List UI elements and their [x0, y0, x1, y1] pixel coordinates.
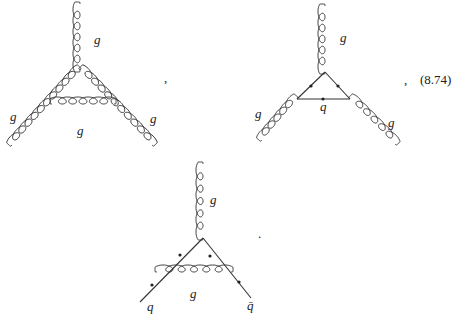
d1-internal-gluon-line: [50, 97, 116, 104]
d1-left-gluon-line: [7, 65, 81, 146]
d2-right-gluon-label: g: [388, 115, 395, 130]
d2-left-gluon-line: [257, 94, 298, 141]
d1-internal-gluon-label: g: [77, 123, 84, 138]
d3-antiquark-label: q̄: [247, 298, 254, 313]
d2-arrow-left: [309, 84, 312, 87]
equation-number: (8.74): [420, 72, 451, 87]
d3-arrow-lower-right: [237, 280, 240, 283]
d2-comma: ,: [404, 72, 407, 87]
d2-internal-quark-label: q: [320, 99, 327, 114]
d3-internal-gluon-label: g: [190, 286, 197, 301]
d1-top-gluon-line: [73, 2, 80, 72]
d1-left-gluon-label: g: [10, 109, 17, 124]
d3-arrow-upper-left: [178, 253, 181, 256]
d3-top-gluon-line: [196, 162, 203, 240]
d3-antiquark-line: [203, 238, 251, 298]
feynman-diagrams-figure: g g g g , g g g q , (8.74) g g q q̄ .: [0, 0, 460, 318]
d1-comma: ,: [164, 70, 167, 85]
d1-right-gluon-line: [79, 65, 157, 146]
d3-arrow-upper-right: [208, 254, 211, 257]
d1-right-gluon-label: g: [150, 111, 157, 126]
d3-internal-gluon-line: [155, 265, 233, 272]
d3-period: .: [258, 226, 261, 241]
d2-arrow-right: [336, 84, 339, 87]
d1-top-gluon-label: g: [94, 32, 101, 47]
d2-top-gluon-label: g: [340, 30, 347, 45]
d3-quark-label: q: [147, 299, 154, 314]
d2-left-gluon-label: g: [255, 106, 262, 121]
d3-arrow-lower-left: [150, 283, 153, 286]
d3-top-gluon-label: g: [210, 192, 217, 207]
d2-top-gluon-line: [318, 4, 325, 74]
